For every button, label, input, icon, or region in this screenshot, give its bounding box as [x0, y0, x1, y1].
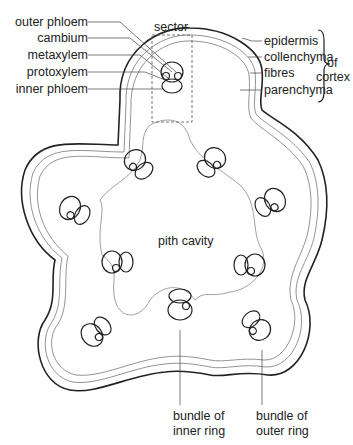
label-bundle-inner-2: inner ring [173, 424, 225, 438]
label-outer-phloem: outer phloem [0, 15, 88, 29]
label-cambium: cambium [0, 31, 88, 45]
label-bundle-outer-2: outer ring [256, 424, 309, 438]
label-collenchyma: collenchyma [264, 50, 333, 64]
label-protoxylem: protoxylem [0, 65, 88, 79]
label-metaxylem: metaxylem [0, 48, 88, 62]
label-epidermis: epidermis [264, 34, 318, 48]
label-pith-cavity: pith cavity [158, 234, 214, 248]
pith-cavity-outline [100, 120, 264, 315]
label-sector: sector [154, 20, 188, 34]
label-parenchyma: parenchyma [264, 83, 333, 97]
label-of: of [327, 56, 337, 70]
label-inner-phloem: inner phloem [0, 82, 88, 96]
label-fibres: fibres [264, 66, 295, 80]
label-cortex: cortex [316, 70, 350, 84]
label-bundle-inner-1: bundle of [173, 409, 224, 423]
label-bundle-outer-1: bundle of [256, 409, 307, 423]
